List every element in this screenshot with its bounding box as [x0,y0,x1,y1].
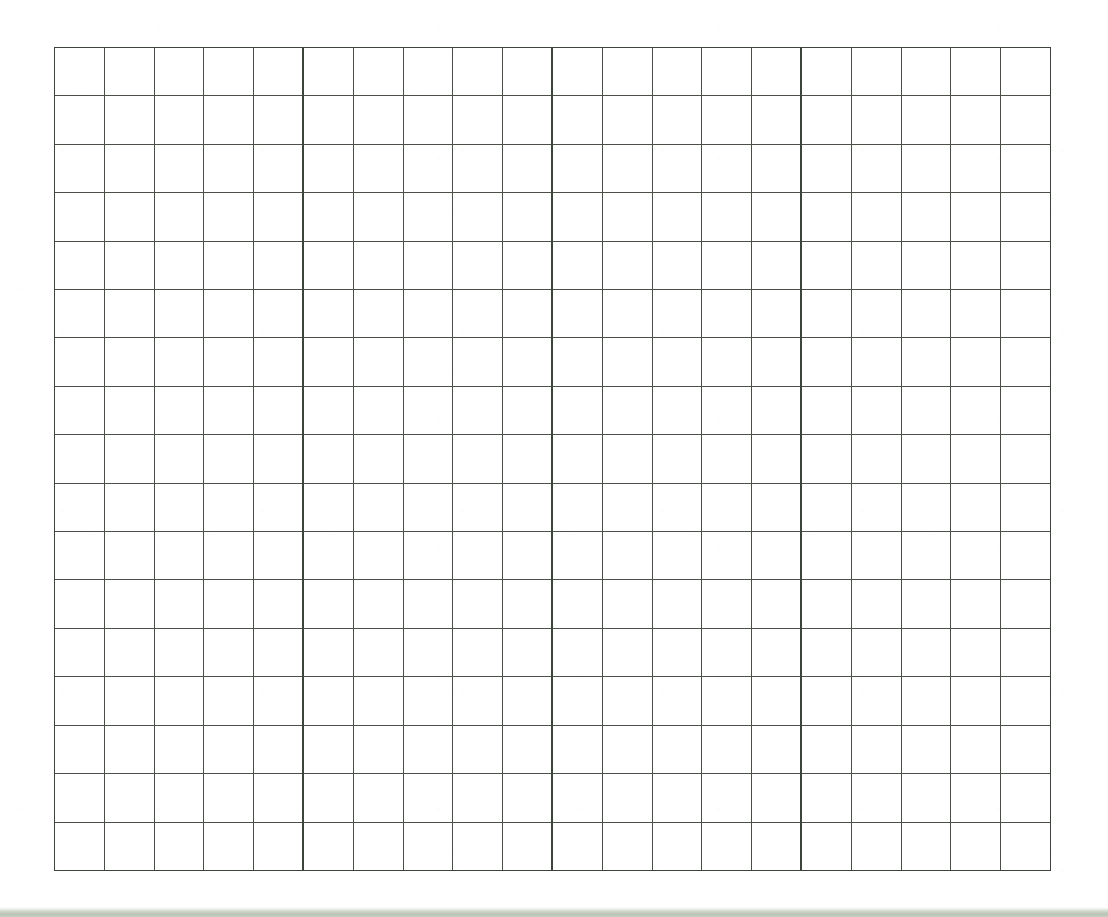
grid-cell[interactable] [801,435,851,483]
grid-cell[interactable] [951,628,1001,676]
grid-cell[interactable] [453,532,503,580]
grid-cell[interactable] [702,822,752,871]
grid-cell[interactable] [154,241,204,289]
grid-cell[interactable] [353,96,403,144]
grid-cell[interactable] [154,144,204,192]
grid-cell[interactable] [154,628,204,676]
grid-cell[interactable] [901,386,951,434]
grid-cell[interactable] [403,48,453,96]
grid-cell[interactable] [254,241,304,289]
grid-cell[interactable] [652,96,702,144]
grid-cell[interactable] [303,241,353,289]
grid-cell[interactable] [403,580,453,628]
grid-cell[interactable] [702,96,752,144]
grid-cell[interactable] [951,774,1001,822]
grid-cell[interactable] [453,386,503,434]
grid-cell[interactable] [602,386,652,434]
grid-cell[interactable] [752,677,802,725]
grid-cell[interactable] [901,338,951,386]
grid-cell[interactable] [154,386,204,434]
grid-cell[interactable] [851,677,901,725]
grid-cell[interactable] [901,822,951,871]
grid-cell[interactable] [652,144,702,192]
grid-cell[interactable] [801,483,851,531]
grid-cell[interactable] [652,193,702,241]
grid-cell[interactable] [303,774,353,822]
grid-cell[interactable] [453,435,503,483]
grid-cell[interactable] [552,386,602,434]
grid-cell[interactable] [752,144,802,192]
grid-cell[interactable] [503,532,553,580]
grid-cell[interactable] [353,532,403,580]
grid-cell[interactable] [104,290,154,338]
grid-cell[interactable] [801,144,851,192]
grid-cell[interactable] [453,96,503,144]
grid-cell[interactable] [602,290,652,338]
grid-cell[interactable] [55,580,105,628]
grid-cell[interactable] [154,774,204,822]
grid-cell[interactable] [1001,96,1051,144]
grid-cell[interactable] [901,677,951,725]
grid-table[interactable] [54,47,1051,871]
grid-cell[interactable] [602,628,652,676]
grid-cell[interactable] [254,144,304,192]
grid-cell[interactable] [1001,48,1051,96]
grid-cell[interactable] [503,725,553,773]
grid-cell[interactable] [851,580,901,628]
grid-cell[interactable] [552,532,602,580]
grid-cell[interactable] [851,48,901,96]
grid-cell[interactable] [353,338,403,386]
grid-cell[interactable] [752,48,802,96]
grid-cell[interactable] [154,580,204,628]
grid-cell[interactable] [1001,241,1051,289]
grid-cell[interactable] [353,725,403,773]
grid-cell[interactable] [752,774,802,822]
grid-cell[interactable] [353,822,403,871]
grid-cell[interactable] [602,774,652,822]
grid-cell[interactable] [1001,774,1051,822]
grid-cell[interactable] [901,580,951,628]
grid-cell[interactable] [254,628,304,676]
grid-cell[interactable] [204,241,254,289]
grid-cell[interactable] [303,483,353,531]
grid-cell[interactable] [552,290,602,338]
grid-cell[interactable] [652,48,702,96]
grid-cell[interactable] [602,338,652,386]
grid-cell[interactable] [752,822,802,871]
grid-cell[interactable] [403,435,453,483]
grid-cell[interactable] [204,338,254,386]
grid-cell[interactable] [752,532,802,580]
grid-cell[interactable] [552,677,602,725]
grid-cell[interactable] [154,532,204,580]
grid-cell[interactable] [901,290,951,338]
grid-cell[interactable] [503,822,553,871]
grid-cell[interactable] [702,435,752,483]
grid-cell[interactable] [403,822,453,871]
grid-cell[interactable] [901,628,951,676]
grid-cell[interactable] [801,532,851,580]
grid-cell[interactable] [503,435,553,483]
grid-cell[interactable] [254,48,304,96]
grid-cell[interactable] [951,483,1001,531]
grid-cell[interactable] [801,96,851,144]
grid-cell[interactable] [951,580,1001,628]
grid-cell[interactable] [104,483,154,531]
grid-cell[interactable] [453,290,503,338]
grid-cell[interactable] [55,96,105,144]
grid-cell[interactable] [303,290,353,338]
grid-cell[interactable] [951,96,1001,144]
grid-cell[interactable] [104,725,154,773]
grid-cell[interactable] [702,725,752,773]
grid-cell[interactable] [901,241,951,289]
grid-cell[interactable] [154,822,204,871]
grid-cell[interactable] [303,628,353,676]
grid-cell[interactable] [55,483,105,531]
grid-cell[interactable] [602,144,652,192]
grid-cell[interactable] [55,338,105,386]
grid-cell[interactable] [1001,386,1051,434]
grid-cell[interactable] [901,774,951,822]
grid-cell[interactable] [303,435,353,483]
grid-cell[interactable] [901,144,951,192]
grid-cell[interactable] [552,48,602,96]
grid-cell[interactable] [403,483,453,531]
